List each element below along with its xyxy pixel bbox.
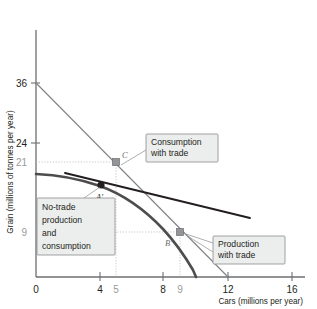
callout-production-line-1: Production — [218, 239, 259, 249]
x-tick-label-8: 8 — [160, 284, 166, 295]
callout-no-trade-line-2: production — [42, 215, 82, 225]
x-tick-label-4: 4 — [97, 284, 103, 295]
point-label-B-prime: B' — [165, 238, 172, 248]
callout-no-trade-line-3: and — [42, 228, 57, 238]
point-marker-A-prime — [97, 181, 104, 188]
y-axis-title: Grain (millions of tonnes per year) — [6, 110, 15, 234]
callout-production-line-2: with trade — [217, 250, 255, 260]
y-tick-label-36: 36 — [16, 78, 28, 89]
y-tick-label-24: 24 — [16, 138, 28, 149]
x-tick-label-12: 12 — [222, 284, 234, 295]
callout-consumption-line-1: Consumption — [151, 137, 202, 147]
x-tick-label-9: 9 — [177, 284, 183, 295]
point-label-C: C — [122, 150, 128, 160]
ppf-trade-chart: Grain (millions of tonnes per year) 36 2… — [0, 0, 317, 309]
point-marker-C — [113, 159, 120, 166]
x-tick-label-0: 0 — [33, 284, 39, 295]
chart-svg: Grain (millions of tonnes per year) 36 2… — [0, 0, 317, 309]
x-tick-label-5: 5 — [113, 284, 119, 295]
y-tick-label-21: 21 — [16, 157, 28, 168]
callout-no-trade-line-4: consumption — [42, 241, 91, 251]
point-marker-B-prime — [177, 229, 184, 236]
callout-no-trade-line-1: No-trade — [42, 202, 76, 212]
y-tick-label-9: 9 — [21, 227, 27, 238]
x-tick-label-16: 16 — [286, 284, 298, 295]
callout-consumption-line-2: with trade — [150, 148, 188, 158]
leader-production-with-trade-2 — [186, 235, 213, 252]
x-axis-title: Cars (millions per year) — [218, 297, 303, 306]
